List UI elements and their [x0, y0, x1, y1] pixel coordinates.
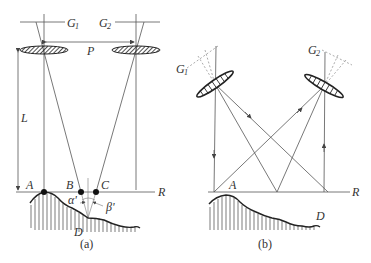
- caption-b: (b): [258, 237, 272, 251]
- label-alpha: α': [68, 193, 77, 207]
- label-c: C: [101, 178, 110, 192]
- g1-tilt-axis-2: [205, 50, 215, 84]
- label-a-a: A: [25, 178, 34, 192]
- angle-arc: [82, 198, 95, 200]
- caption-a: (a): [80, 237, 93, 251]
- g1-tilt-reference: [187, 46, 218, 68]
- g1-vertical: [214, 46, 216, 192]
- label-r-a: R: [157, 185, 166, 199]
- point-c: [93, 189, 99, 195]
- panel-b: G 1 G 2 A R D (b): [176, 43, 360, 251]
- ray-arrow-2: [297, 108, 302, 113]
- ray-c-to-d: [88, 192, 96, 218]
- label-l: L: [20, 111, 28, 125]
- point-a: [41, 189, 47, 195]
- panel-a: G 1 G 2 P L A B C R α' β' D (a): [16, 14, 166, 251]
- ray-g2-to-a: [214, 86, 324, 192]
- ray-g1-to-center: [215, 84, 277, 192]
- alpha-pointer: [80, 202, 85, 203]
- terrain-hatching-b: [210, 196, 314, 230]
- label-r-b: R: [351, 185, 360, 199]
- label-g2-sub-a: 2: [107, 22, 111, 31]
- lens-g1: [20, 46, 68, 54]
- point-b: [78, 189, 84, 195]
- label-g2-sub-b: 2: [316, 49, 320, 58]
- label-beta: β': [105, 200, 115, 214]
- label-b: B: [66, 178, 74, 192]
- beta-pointer: [93, 202, 103, 206]
- g1-tilt-axis-1: [198, 56, 215, 84]
- terrain-profile-a: [30, 192, 140, 228]
- label-d-b: D: [315, 209, 325, 223]
- g2-tilt-reference: [322, 50, 352, 65]
- label-p: P: [86, 44, 95, 58]
- label-a-b: A: [228, 178, 237, 192]
- g2-tilt-axis-1: [324, 55, 338, 86]
- diagram-canvas: G 1 G 2 P L A B C R α' β' D (a): [0, 0, 371, 263]
- stereo-geometry-figure: G 1 G 2 P L A B C R α' β' D (a): [0, 0, 371, 263]
- label-g1-sub-a: 1: [75, 22, 79, 31]
- g2-tilt-axis-2: [324, 60, 346, 86]
- lens-g2: [112, 46, 160, 54]
- ray-g1-to-right: [215, 84, 328, 192]
- g2-vertical: [324, 52, 325, 192]
- label-g1-sub-b: 1: [184, 68, 188, 77]
- ray-arrow-1: [245, 112, 251, 118]
- ray-g2-to-center: [277, 86, 324, 192]
- lens-g2-tilted: [303, 72, 345, 101]
